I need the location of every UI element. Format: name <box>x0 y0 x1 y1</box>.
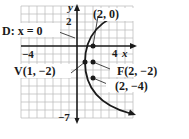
vertex-point <box>83 60 88 65</box>
focus-label: F(2, −2) <box>117 64 157 78</box>
latus-bottom-point <box>91 76 96 81</box>
y-axis-arrow-down-icon <box>75 118 80 124</box>
directrix-label: D: x = 0 <box>2 24 43 38</box>
tick-label-4: 4 <box>112 47 118 59</box>
point-label-top: (2, 0) <box>93 7 119 21</box>
vertex-label: V(1, −2) <box>14 64 56 78</box>
tick-label-neg7: −7 <box>58 111 70 123</box>
y-axis-label: y <box>66 1 73 13</box>
latus-top-point <box>91 44 96 49</box>
focus-point <box>91 60 96 65</box>
x-axis-arrow-icon <box>130 43 137 49</box>
y-axis-arrow-up-icon <box>74 4 80 11</box>
tick-label-neg4: −4 <box>22 48 34 60</box>
parabola-diagram: y 2 (2, 0) D: x = 0 −4 4 x V(1, −2) F(2,… <box>0 0 189 139</box>
point-label-bottom: (2, −4) <box>115 79 148 93</box>
x-axis-label: x <box>121 47 128 59</box>
curve-arrow-bottom-icon <box>128 110 136 116</box>
tick-label-2: 2 <box>66 15 72 27</box>
